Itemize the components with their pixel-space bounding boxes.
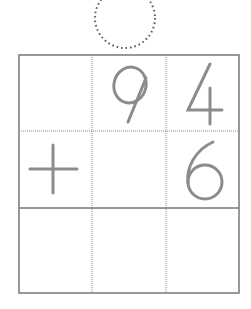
answer-cell-hundreds[interactable] — [20, 209, 91, 292]
carry-circle[interactable] — [95, 0, 155, 48]
digit-6 — [188, 142, 222, 199]
plus-sign — [30, 145, 77, 193]
digit-4 — [188, 64, 222, 124]
digit-9 — [110, 63, 150, 122]
addition-worksheet — [0, 0, 251, 309]
answer-cell-tens[interactable] — [93, 209, 165, 292]
answer-cell-ones[interactable] — [167, 209, 238, 292]
